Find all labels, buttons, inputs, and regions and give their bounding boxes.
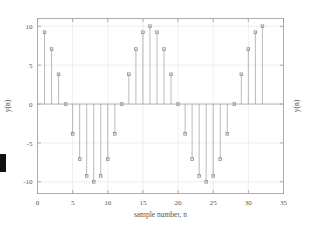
stem-point [135,48,138,104]
y-tick-label: 5 [29,62,33,70]
stem-point [142,31,145,104]
y-tick-label: -5 [27,140,33,148]
stem-marker [170,73,173,76]
y-tick-label: 0 [29,101,33,109]
x-tick-label: 20 [175,199,183,207]
figure-canvas: 05101520253035 -10-50510 sample number, … [0,0,309,228]
stem-point [191,104,194,160]
stem-point [43,31,46,104]
plot-frame [38,19,284,194]
x-tick-label: 10 [104,199,112,207]
stem-point [247,48,250,104]
stem-point [92,104,95,183]
x-tick-label: 15 [139,199,147,207]
x-tick-label: 25 [210,199,218,207]
x-tick-label: 5 [71,199,75,207]
left-edge-artifact [0,154,6,172]
stem-point [219,104,222,160]
x-tick-label: 35 [280,199,288,207]
stem-point [184,104,187,135]
y-axis-title-right: y(n) [292,99,301,112]
stem-point [114,104,117,135]
y-tick-label: -10 [23,178,33,186]
stem-point [156,31,159,104]
x-axis-title: sample number, n [134,210,187,219]
y-axis-ticks: -10-50510 [23,23,283,187]
stem-marker [240,73,243,76]
y-axis-title-left: y(n) [3,99,12,112]
stem-point [170,73,173,104]
stem-point [78,104,81,160]
stem-point [163,48,166,104]
plot-grid [38,19,284,194]
stem-plot: 05101520253035 -10-50510 sample number, … [0,0,309,228]
stem-point [198,104,201,177]
axes-border [38,19,284,194]
stem-point [261,25,264,104]
stem-point [240,73,243,104]
stem-point [128,73,131,104]
stem-point [99,104,102,177]
stem-point [71,104,74,135]
stem-point [149,25,152,104]
stem-point [106,104,109,160]
stem-point [205,104,208,183]
stem-point [212,104,215,177]
x-tick-label: 0 [36,199,40,207]
stem-point [226,104,229,135]
stem-point [50,48,53,104]
stem-point [254,31,257,104]
stem-point [57,73,60,104]
stem-point [85,104,88,177]
x-tick-label: 30 [245,199,253,207]
y-tick-label: 10 [26,23,34,31]
x-axis-ticks: 05101520253035 [36,19,288,207]
stem-marker [128,73,131,76]
stem-marker [57,73,60,76]
